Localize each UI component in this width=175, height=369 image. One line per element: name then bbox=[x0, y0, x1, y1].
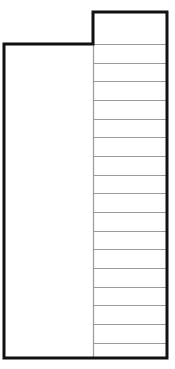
layout-wireframe bbox=[0, 0, 175, 369]
diagram-canvas bbox=[0, 0, 175, 369]
right-column-rows bbox=[93, 45, 167, 344]
